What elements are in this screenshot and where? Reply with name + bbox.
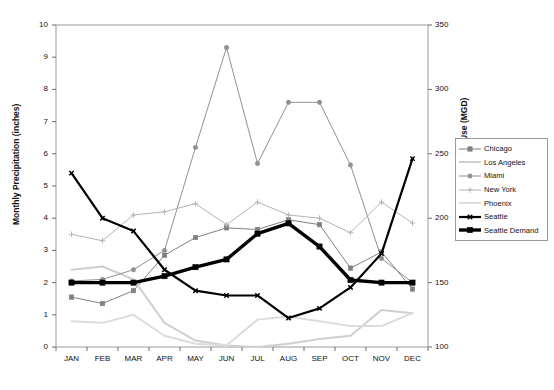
data-point <box>224 45 228 49</box>
y-axis-right-tick: 100 <box>435 342 461 351</box>
y-axis-left-tick: 5 <box>28 181 48 190</box>
legend-item-miami[interactable]: Miami <box>458 169 544 183</box>
data-point <box>162 248 166 252</box>
legend-label: Los Angeles <box>484 158 525 167</box>
data-point <box>162 274 167 279</box>
series-chicago <box>69 218 414 306</box>
data-point <box>100 280 105 285</box>
data-point <box>193 235 197 239</box>
data-point <box>100 301 104 305</box>
data-point <box>69 280 74 285</box>
data-point <box>379 280 384 285</box>
data-point <box>286 221 291 226</box>
y-axis-left-tick: 8 <box>28 84 48 93</box>
legend-item-los-angeles[interactable]: Los Angeles <box>458 156 544 170</box>
precipitation-water-use-chart: Monthly Precipitation (inches) Average D… <box>0 0 554 390</box>
data-point <box>317 244 322 249</box>
legend-swatch-icon <box>458 184 482 196</box>
chart-legend: ChicagoLos AngelesMiamiNew YorkPhoenixSe… <box>455 138 548 241</box>
legend-label: Phoenix <box>484 199 511 208</box>
data-point <box>131 280 136 285</box>
data-point <box>410 280 415 285</box>
series-los-angeles <box>72 267 413 348</box>
y-axis-right-tick: 300 <box>435 84 461 93</box>
data-point <box>468 174 472 178</box>
data-point <box>193 145 197 149</box>
y-axis-left-tick: 6 <box>28 149 48 158</box>
legend-swatch-icon <box>458 197 482 209</box>
data-point <box>348 163 352 167</box>
y-axis-left-tick: 2 <box>28 278 48 287</box>
data-point <box>255 231 260 236</box>
legend-item-new-york[interactable]: New York <box>458 183 544 197</box>
y-axis-right-tick: 350 <box>435 20 461 29</box>
series-seattle-demand <box>69 221 415 285</box>
legend-label: New York <box>484 185 516 194</box>
legend-swatch-icon <box>458 156 482 168</box>
legend-label: Chicago <box>484 144 512 153</box>
y-axis-left-tick: 0 <box>28 342 48 351</box>
data-point <box>286 100 290 104</box>
data-point <box>317 100 321 104</box>
series-new-york <box>69 199 416 243</box>
data-point <box>317 222 321 226</box>
legend-swatch-icon <box>458 224 482 236</box>
y-axis-left-tick: 9 <box>28 52 48 61</box>
data-point <box>193 265 198 270</box>
plot-frame <box>56 25 428 347</box>
data-point <box>255 161 259 165</box>
data-point <box>348 277 353 282</box>
data-point <box>162 253 166 257</box>
legend-item-seattle-demand[interactable]: Seattle Demand <box>458 224 544 238</box>
y-axis-left-tick: 3 <box>28 245 48 254</box>
x-axis-tick: DEC <box>393 354 433 363</box>
data-point <box>467 228 472 233</box>
data-point <box>348 266 352 270</box>
series-phoenix <box>72 313 413 345</box>
legend-label: Seattle Demand <box>484 226 538 235</box>
y-axis-left-tick: 4 <box>28 213 48 222</box>
legend-swatch-icon <box>458 170 482 182</box>
series-miami <box>69 45 414 284</box>
legend-label: Miami <box>484 171 504 180</box>
data-point <box>69 295 73 299</box>
data-point <box>224 257 229 262</box>
legend-swatch-icon <box>458 211 482 223</box>
data-point <box>131 288 135 292</box>
legend-label: Seattle <box>484 212 508 221</box>
legend-item-seattle[interactable]: Seattle <box>458 210 544 224</box>
legend-item-chicago[interactable]: Chicago <box>458 142 544 156</box>
y-axis-right-tick: 150 <box>435 278 461 287</box>
data-point <box>131 268 135 272</box>
y-axis-left-tick: 1 <box>28 310 48 319</box>
data-point <box>410 287 414 291</box>
legend-item-phoenix[interactable]: Phoenix <box>458 196 544 210</box>
y-axis-left-tick: 7 <box>28 117 48 126</box>
legend-swatch-icon <box>458 143 482 155</box>
y-axis-left-tick: 10 <box>28 20 48 29</box>
data-point <box>468 147 472 151</box>
